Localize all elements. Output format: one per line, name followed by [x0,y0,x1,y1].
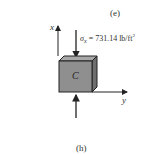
stress-subscript: x [84,38,87,44]
stress-unit-exponent: 2 [132,33,135,38]
stress-label: σx = 731.14 lb/ft2 [80,33,135,44]
axis-x-label: x [50,23,54,32]
element-label: C [72,71,79,81]
stress-value: = 731.14 lb/ft [89,34,133,43]
subfigure-caption-h: (h) [76,144,87,153]
cube-side-face [92,56,97,92]
axis-y-label: y [122,96,126,105]
cube-top-face [59,56,97,61]
